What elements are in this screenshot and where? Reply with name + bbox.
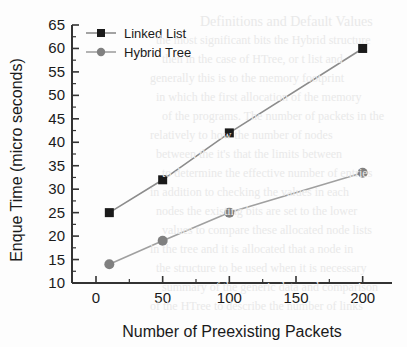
y-tick-label: 10 (48, 274, 65, 291)
y-tick-label: 45 (48, 110, 65, 127)
data-point-marker (158, 236, 168, 246)
x-tick-label: 50 (154, 289, 171, 306)
x-tick-label: 150 (283, 289, 308, 306)
y-tick-label: 55 (48, 63, 65, 80)
legend-label: Hybrid Tree (124, 45, 191, 60)
series-line (109, 49, 362, 213)
legend-label: Linked List (124, 26, 187, 41)
x-tick-label: 0 (92, 289, 100, 306)
data-point-marker (105, 208, 114, 217)
data-point-marker (224, 208, 234, 218)
y-tick-label: 20 (48, 227, 65, 244)
series-hybrid-tree (104, 168, 367, 269)
legend-marker-2 (97, 48, 105, 56)
x-axis-tick-labels: 050100150200 (92, 289, 375, 306)
y-tick-label: 15 (48, 251, 65, 268)
series-line (109, 173, 362, 264)
data-series-layer (104, 44, 367, 269)
data-point-marker (225, 128, 234, 137)
enque-time-line-chart: 101520253035404550556065 050100150200 Li… (0, 0, 407, 347)
y-tick-label: 35 (48, 157, 65, 174)
data-point-marker (358, 44, 367, 53)
y-tick-label: 60 (48, 39, 65, 56)
data-point-marker (158, 175, 167, 184)
data-point-marker (358, 168, 368, 178)
y-tick-label: 65 (48, 16, 65, 33)
data-point-marker (104, 259, 114, 269)
y-tick-label: 50 (48, 86, 65, 103)
y-tick-label: 40 (48, 133, 65, 150)
chart-legend: Linked ListHybrid Tree (86, 26, 191, 60)
y-tick-label: 30 (48, 180, 65, 197)
series-linked-list (105, 44, 367, 217)
x-axis-major-ticks (96, 276, 363, 283)
x-tick-label: 100 (217, 289, 242, 306)
chart-figure: Definitions and Default Valuesthe most s… (0, 0, 407, 347)
x-tick-label: 200 (350, 289, 375, 306)
y-axis-tick-labels: 101520253035404550556065 (48, 16, 65, 291)
y-tick-label: 25 (48, 204, 65, 221)
legend-marker-1 (97, 29, 105, 37)
x-axis-title: Number of Preexisting Packets (122, 323, 342, 340)
y-axis-title: Enque Time (micro seconds) (8, 58, 25, 262)
